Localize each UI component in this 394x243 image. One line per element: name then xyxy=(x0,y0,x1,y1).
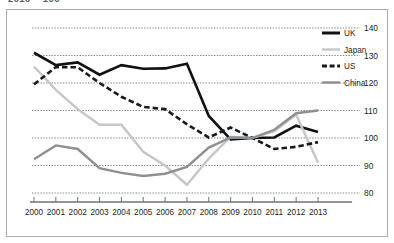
chart-legend: UKJapanUSChina xyxy=(322,29,367,88)
data-series xyxy=(34,53,318,185)
x-tick-label-2006: 2006 xyxy=(156,208,175,217)
legend-label-china: China xyxy=(344,79,366,88)
legend-label-uk: UK xyxy=(344,29,356,38)
legend-label-japan: Japan xyxy=(344,46,367,55)
x-tick-label-2011: 2011 xyxy=(266,208,284,217)
x-tick-label-2007: 2007 xyxy=(178,208,197,217)
series-line-uk xyxy=(34,53,318,140)
y-tick-90: 90 xyxy=(364,161,374,171)
y-tick-110: 110 xyxy=(364,106,378,116)
y-tick-140: 140 xyxy=(364,23,378,33)
y-tick-120: 120 xyxy=(364,78,378,88)
x-tick-label-2013: 2013 xyxy=(309,208,328,217)
legend-label-us: US xyxy=(344,62,356,71)
x-tick-label-2001: 2001 xyxy=(47,208,66,217)
x-tick-label-2003: 2003 xyxy=(90,208,109,217)
chart-page: 2010 = 100 80901001101201301402000200120… xyxy=(0,0,394,243)
x-tick-label-2010: 2010 xyxy=(243,208,262,217)
x-tick-label-2004: 2004 xyxy=(112,208,131,217)
x-tick-label-2000: 2000 xyxy=(25,208,44,217)
series-line-japan xyxy=(34,67,318,185)
line-chart: 8090100110120130140200020012002200320042… xyxy=(0,0,394,243)
x-tick-label-2008: 2008 xyxy=(200,208,219,217)
x-tick-label-2012: 2012 xyxy=(287,208,306,217)
y-tick-80: 80 xyxy=(364,188,374,198)
x-tick-label-2002: 2002 xyxy=(69,208,88,217)
y-tick-100: 100 xyxy=(364,133,378,143)
x-tick-label-2009: 2009 xyxy=(222,208,241,217)
x-axis: 2000200120022003200420052006200720082009… xyxy=(25,197,352,217)
series-line-china xyxy=(34,111,318,176)
x-tick-label-2005: 2005 xyxy=(134,208,153,217)
chart-canvas: 8090100110120130140200020012002200320042… xyxy=(0,0,394,243)
